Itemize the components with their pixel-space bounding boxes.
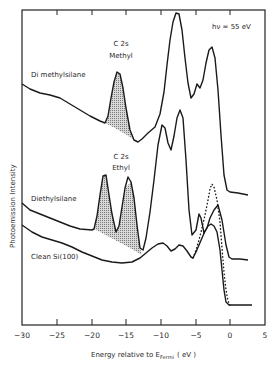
dimethylsilane-curve [22, 13, 248, 195]
x-tick-label: 5 [263, 331, 268, 340]
x-tick-label: −30 [14, 331, 30, 340]
x-tick-labels: −30 −25 −20 −15 −10 −5 0 5 [14, 331, 268, 340]
y-axis-label: Photoemission Intensity [9, 164, 17, 248]
x-tick-label: 0 [228, 331, 233, 340]
x-tick-label: −20 [84, 331, 100, 340]
bottom-ticks [57, 319, 230, 325]
plot-frame [22, 10, 265, 325]
clean-si100-label: Clean Si(100) [31, 253, 79, 261]
diethylsilane-label: Diethylsilane [31, 195, 76, 203]
photon-energy-annotation: hν = 55 eV [212, 23, 251, 31]
top-ticks [57, 10, 230, 15]
ethyl-annotation-line1: C 2s [113, 153, 129, 161]
photoemission-chart: −30 −25 −20 −15 −10 −5 0 5 Energy relati… [0, 0, 278, 368]
methyl-annotation-line2: Methyl [109, 52, 133, 60]
methyl-annotation-line1: C 2s [113, 40, 129, 48]
x-tick-label: −25 [49, 331, 65, 340]
x-tick-label: −5 [190, 331, 201, 340]
dimethylsilane-label: Di methylsilane [31, 71, 86, 79]
x-tick-label: −15 [118, 331, 134, 340]
ethyl-annotation-line2: Ethyl [112, 164, 130, 172]
x-tick-label: −10 [153, 331, 169, 340]
x-axis-label: Energy relative to EFermi( eV ) [91, 351, 196, 360]
